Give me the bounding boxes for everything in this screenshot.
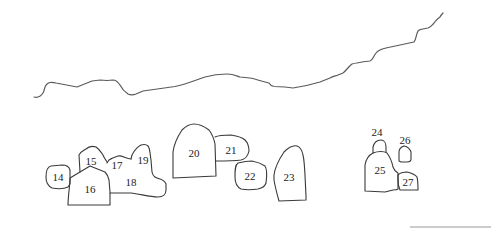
stone-23: 23 [274, 146, 306, 201]
stone-14-label: 14 [53, 171, 65, 183]
site-plan-diagram: 14 15 16 17 18 19 20 21 22 23 [0, 0, 491, 230]
stone-25-label: 25 [375, 164, 387, 176]
stone-20-label: 20 [189, 147, 201, 159]
stone-27: 27 [398, 172, 418, 190]
stone-22-label: 22 [245, 170, 256, 182]
stone-26: 26 [399, 134, 411, 162]
stone-19-label: 19 [138, 154, 150, 166]
stone-21-label: 21 [226, 144, 237, 156]
stone-26-label: 26 [400, 134, 412, 146]
stone-24-label: 24 [372, 126, 384, 138]
stone-14: 14 [46, 165, 70, 189]
stone-16: 16 [68, 166, 110, 205]
stone-15: 15 [79, 146, 107, 172]
stone-19: 19 [138, 154, 150, 166]
stone-17: 17 [107, 156, 131, 171]
stone-21: 21 [215, 135, 249, 161]
stone-20: 20 [173, 124, 216, 178]
stone-26-outline [399, 146, 411, 162]
stone-27-label: 27 [403, 176, 415, 188]
stone-25: 25 [365, 152, 398, 193]
stone-18-label: 18 [126, 176, 138, 188]
stone-15-label: 15 [86, 155, 98, 167]
stone-17-label: 17 [112, 159, 124, 171]
stone-24: 24 [372, 126, 387, 153]
ridge-line [34, 13, 443, 97]
stone-16-label: 16 [85, 183, 97, 195]
stone-23-label: 23 [284, 171, 296, 183]
stone-22: 22 [235, 161, 267, 190]
